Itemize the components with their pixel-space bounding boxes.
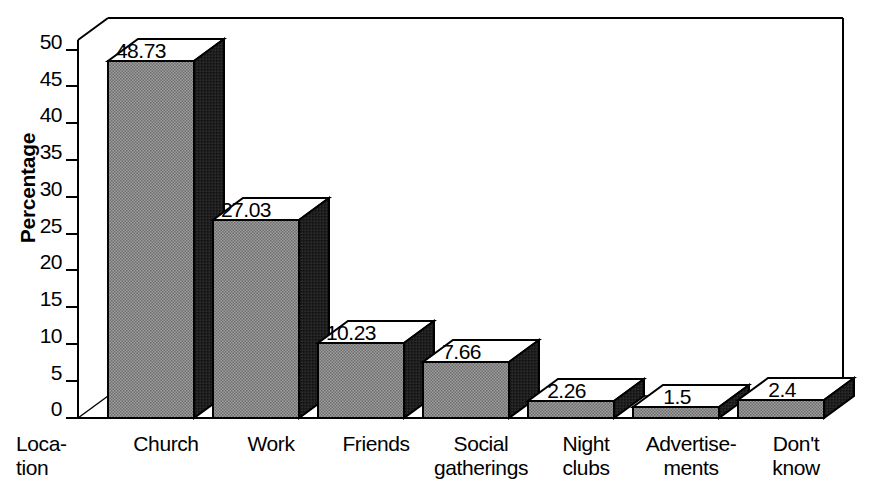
bar-work[interactable]: 27.03 bbox=[213, 198, 329, 418]
bar-value-friends: 10.23 bbox=[326, 321, 376, 344]
y-axis-ticks bbox=[66, 50, 78, 418]
x-tick-label-work: Work bbox=[213, 432, 329, 456]
bar-value-church: 48.73 bbox=[116, 39, 166, 62]
bar-friends[interactable]: 10.23 bbox=[318, 321, 434, 418]
x-tick-label-church: Church bbox=[108, 432, 224, 456]
bar-chart: Percentage 0 5 10 15 20 25 30 35 40 45 5… bbox=[0, 0, 875, 492]
bar-night-clubs[interactable]: 2.26 bbox=[528, 379, 644, 418]
bar-church[interactable]: 48.73 bbox=[108, 39, 224, 418]
x-axis-title-line1: Loca- bbox=[16, 432, 112, 456]
bar-value-social-gatherings: 7.66 bbox=[442, 340, 481, 363]
bar-value-night-clubs: 2.26 bbox=[547, 379, 586, 402]
bar-value-work: 27.03 bbox=[221, 198, 271, 221]
bar-value-dont-know: 2.4 bbox=[768, 378, 797, 401]
plot-area: 48.73 27.03 10.23 7.66 2.26 bbox=[0, 0, 875, 492]
x-tick-label-work-line1: Work bbox=[213, 432, 329, 456]
x-axis-title-line2: tion bbox=[16, 456, 112, 480]
x-axis-title: Loca- tion bbox=[16, 432, 112, 480]
x-tick-label-church-line1: Church bbox=[108, 432, 224, 456]
bar-social-gatherings[interactable]: 7.66 bbox=[423, 340, 539, 418]
bar-value-advertisements: 1.5 bbox=[663, 385, 691, 408]
x-tick-label-dont-know-line2: know bbox=[738, 456, 854, 480]
bar-advertisements[interactable]: 1.5 bbox=[633, 385, 749, 418]
x-tick-label-dont-know-line1: Don't bbox=[738, 432, 854, 456]
x-tick-label-dont-know: Don't know bbox=[738, 432, 854, 480]
bar-dont-know[interactable]: 2.4 bbox=[738, 378, 854, 418]
